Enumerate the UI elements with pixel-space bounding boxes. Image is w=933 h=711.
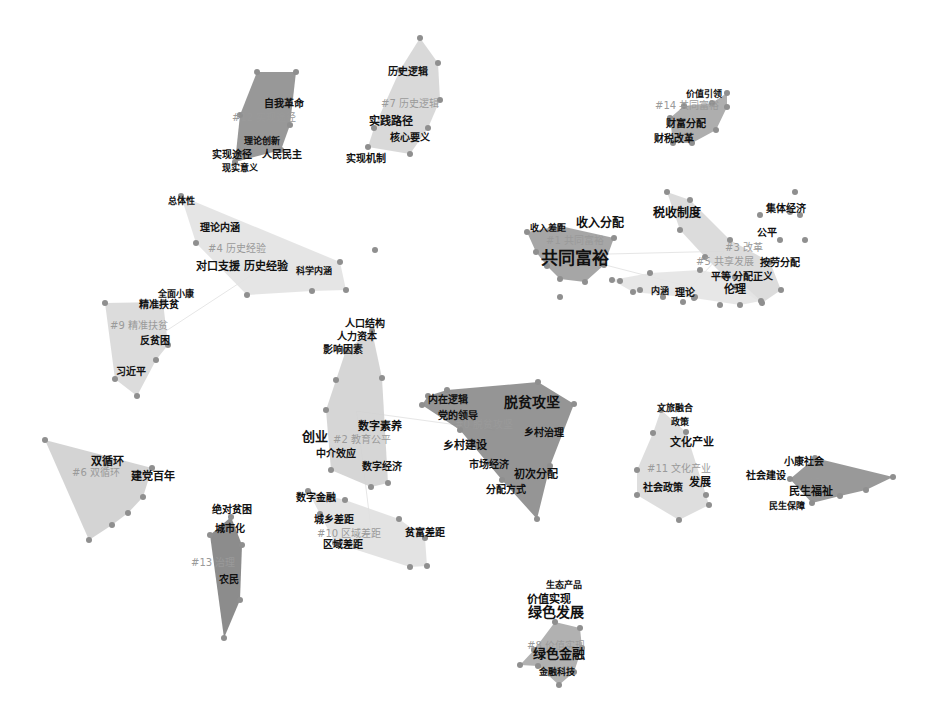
keyword-node[interactable] — [758, 298, 764, 304]
keyword-label[interactable]: 现实意义 — [222, 161, 258, 174]
keyword-node[interactable] — [677, 227, 683, 233]
keyword-node[interactable] — [417, 35, 423, 41]
keyword-label[interactable]: 农民 — [219, 571, 239, 586]
keyword-label[interactable]: 绿色发展 — [528, 601, 584, 621]
keyword-label[interactable]: 精准扶贫 — [139, 296, 179, 311]
keyword-label[interactable]: 科学内涵 — [296, 264, 332, 277]
keyword-node[interactable] — [385, 480, 391, 486]
keyword-node[interactable] — [611, 235, 617, 241]
keyword-node[interactable] — [372, 247, 378, 253]
keyword-node[interactable] — [706, 502, 712, 508]
keyword-node[interactable] — [703, 492, 709, 498]
keyword-node[interactable] — [533, 249, 539, 255]
cluster-label-7[interactable]: #7 历史逻辑 — [381, 95, 439, 110]
keyword-node[interactable] — [86, 537, 92, 543]
keyword-label[interactable]: 人民民主 — [262, 146, 302, 161]
keyword-node[interactable] — [809, 500, 815, 506]
keyword-node[interactable] — [724, 90, 730, 96]
keyword-node[interactable] — [293, 69, 299, 75]
keyword-label[interactable]: 实现途径 — [212, 146, 252, 161]
keyword-node[interactable] — [737, 302, 743, 308]
keyword-label[interactable]: 社会政策 — [643, 479, 683, 494]
keyword-label[interactable]: 数字经济 — [362, 458, 402, 473]
keyword-label[interactable]: 习近平 — [116, 363, 146, 378]
keyword-label[interactable]: 核心要义 — [390, 129, 430, 144]
keyword-label[interactable]: 实现机制 — [346, 150, 386, 165]
cluster-label-4[interactable]: #4 历史经验 — [208, 240, 266, 255]
keyword-label[interactable]: 财富分配 — [666, 115, 706, 130]
keyword-node[interactable] — [140, 494, 146, 500]
keyword-node[interactable] — [717, 302, 723, 308]
keyword-label[interactable]: 伦理 — [724, 280, 746, 296]
keyword-label[interactable]: 脱贫攻坚 — [504, 391, 560, 411]
keyword-node[interactable] — [407, 564, 413, 570]
keyword-node[interactable] — [42, 437, 48, 443]
keyword-label[interactable]: 财税改革 — [654, 130, 694, 145]
keyword-label[interactable]: 绿色金融 — [533, 643, 585, 662]
keyword-node[interactable] — [328, 467, 334, 473]
keyword-node[interactable] — [333, 377, 339, 383]
keyword-node[interactable] — [125, 510, 131, 516]
keyword-label[interactable]: 数字素养 — [358, 417, 402, 433]
keyword-node[interactable] — [309, 288, 315, 294]
keyword-node[interactable] — [244, 292, 250, 298]
keyword-node[interactable] — [419, 402, 425, 408]
keyword-node[interactable] — [577, 625, 583, 631]
keyword-node[interactable] — [713, 127, 719, 133]
keyword-label[interactable]: 内涵 — [651, 284, 669, 297]
keyword-label[interactable]: 收入差距 — [530, 221, 566, 234]
cluster-label-12[interactable]: #12 实现途径 — [232, 109, 296, 124]
keyword-label[interactable]: 文旅融合 — [657, 401, 693, 414]
keyword-node[interactable] — [757, 212, 763, 218]
keyword-label[interactable]: 历史逻辑 — [388, 63, 428, 78]
keyword-label[interactable]: 内在逻辑 — [428, 391, 468, 406]
keyword-node[interactable] — [630, 289, 636, 295]
keyword-node[interactable] — [153, 357, 159, 363]
keyword-label[interactable]: 自我革命 — [264, 95, 304, 110]
keyword-label[interactable]: 对口支援 — [196, 257, 240, 273]
keyword-label[interactable]: 文化产业 — [670, 433, 714, 449]
keyword-label[interactable]: 政策 — [671, 415, 689, 428]
keyword-node[interactable] — [379, 375, 385, 381]
keyword-label[interactable]: 税收制度 — [653, 203, 701, 220]
keyword-node[interactable] — [634, 467, 640, 473]
keyword-label[interactable]: 总体性 — [168, 194, 195, 207]
keyword-label[interactable]: 民生福祉 — [789, 482, 833, 498]
keyword-node[interactable] — [407, 151, 413, 157]
keyword-node[interactable] — [647, 270, 653, 276]
keyword-label[interactable]: 影响因素 — [323, 341, 363, 356]
keyword-label[interactable]: 绝对贫困 — [212, 501, 252, 516]
keyword-node[interactable] — [724, 104, 730, 110]
keyword-node[interactable] — [237, 597, 243, 603]
cluster-label-13[interactable]: #13 治理 — [191, 554, 235, 569]
keyword-node[interactable] — [535, 379, 541, 385]
keyword-label[interactable]: 价值引领 — [686, 87, 722, 100]
cluster-label-2[interactable]: #2 教育公平 — [333, 431, 391, 446]
keyword-label[interactable]: 数字金融 — [296, 489, 336, 504]
keyword-label[interactable]: 发展 — [689, 473, 711, 489]
keyword-node[interactable] — [342, 497, 348, 503]
keyword-node[interactable] — [556, 682, 562, 688]
keyword-label[interactable]: 共同富裕 — [541, 244, 609, 269]
keyword-label[interactable]: 城乡差距 — [314, 511, 354, 526]
cluster-label-3[interactable]: #3 改革 — [725, 239, 763, 254]
keyword-label[interactable]: 区域差距 — [323, 536, 363, 551]
keyword-node[interactable] — [396, 516, 402, 522]
keyword-node[interactable] — [609, 277, 615, 283]
keyword-node[interactable] — [571, 401, 577, 407]
keyword-label[interactable]: 建党百年 — [131, 467, 175, 483]
keyword-node[interactable] — [102, 300, 108, 306]
keyword-node[interactable] — [207, 532, 213, 538]
cluster-label-9[interactable]: #9 精准扶贫 — [110, 317, 168, 332]
keyword-node[interactable] — [254, 69, 260, 75]
keyword-label[interactable]: 实践路径 — [369, 112, 413, 128]
keyword-node[interactable] — [134, 393, 140, 399]
keyword-node[interactable] — [221, 635, 227, 641]
keyword-label[interactable]: 集体经济 — [766, 200, 806, 215]
keyword-label[interactable]: 分配方式 — [486, 481, 526, 496]
keyword-label[interactable]: 市场经济 — [469, 456, 509, 471]
keyword-node[interactable] — [680, 299, 686, 305]
keyword-label[interactable]: 乡村建设 — [443, 436, 487, 452]
keyword-node[interactable] — [778, 287, 784, 293]
keyword-node[interactable] — [837, 493, 843, 499]
